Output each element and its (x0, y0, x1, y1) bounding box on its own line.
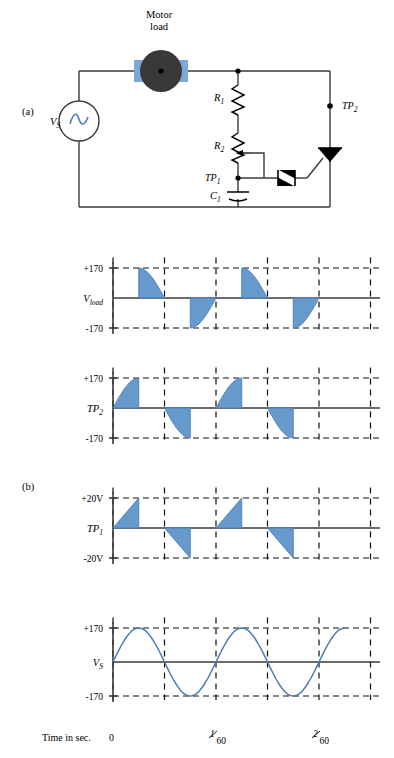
figure-triac-motor-speed-control: Motor load VS (a) R1 R2 C1 (0, 0, 394, 758)
waveform-segment (165, 528, 191, 558)
time-tick-fraction: 260 (312, 729, 329, 746)
y-tick-label-max: +170 (83, 264, 103, 274)
junction-dot-top (235, 68, 240, 73)
waveform-segment (165, 408, 191, 438)
y-tick-label-max: +170 (83, 624, 103, 634)
r2-potentiometer (232, 133, 244, 163)
tp2-node-dot (327, 103, 333, 109)
panel-a-label: (a) (22, 106, 34, 118)
motor-label-line2: load (150, 21, 169, 32)
waveform-segment (242, 268, 268, 298)
r2-label: R2 (213, 140, 224, 154)
y-tick-label-min: -170 (86, 324, 104, 334)
waveform-segment (216, 378, 242, 408)
waveform-segment (113, 378, 139, 408)
r1-resistor (232, 85, 244, 115)
circuit-wires (79, 71, 330, 207)
motor-load (134, 50, 188, 92)
waveform-segment (293, 298, 319, 328)
waveform-segment (268, 408, 294, 438)
y-tick-label-max: +170 (83, 374, 103, 384)
plot-v-load: +170-170Vload (83, 258, 380, 335)
waveform-segment (216, 498, 242, 528)
plot-tp2: +170-170TP2 (83, 368, 380, 445)
series-label: Vload (83, 293, 103, 307)
plot-tp1: +20V-20VTP1 (81, 488, 380, 565)
series-label: TP1 (87, 523, 103, 537)
series-label: VS (93, 657, 103, 671)
y-tick-label-min: -20V (83, 554, 103, 564)
waveform-panel: (b) +170-170Vload+170-170TP2+20V-20VTP1+… (22, 258, 380, 703)
tp1-label: TP1 (205, 172, 220, 186)
waveform-segment (190, 298, 216, 328)
c1-label: C1 (210, 190, 221, 204)
tp2-label: TP2 (342, 100, 358, 114)
diac (278, 170, 295, 186)
time-axis: Time in sec. 0160260 (42, 729, 329, 746)
waveform-segment (268, 528, 294, 558)
time-tick-label: 0 (109, 732, 114, 743)
fraction-denominator: 60 (217, 736, 227, 746)
plot-vs: +170-170VS (83, 618, 380, 703)
y-tick-label-min: -170 (86, 434, 104, 444)
r1-label: R1 (213, 92, 224, 106)
tp1-node-dot (235, 175, 240, 180)
series-label: TP2 (87, 403, 103, 417)
motor-label-line1: Motor (146, 9, 173, 20)
waveform-segment (139, 268, 165, 298)
fraction-denominator: 60 (320, 736, 330, 746)
time-tick-fraction: 160 (209, 729, 226, 746)
panel-b-label: (b) (22, 481, 35, 493)
circuit-schematic: Motor load VS (a) R1 R2 C1 (22, 9, 358, 207)
y-tick-label-max: +20V (81, 494, 103, 504)
time-axis-caption: Time in sec. (42, 732, 91, 743)
waveform-segment (113, 498, 139, 528)
y-tick-label-min: -170 (86, 692, 104, 702)
ac-source (59, 101, 99, 141)
motor-shaft (158, 68, 163, 73)
